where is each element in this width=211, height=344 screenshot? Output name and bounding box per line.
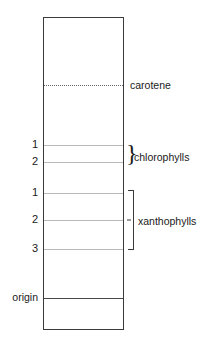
origin-label: origin	[12, 292, 38, 303]
label-chlorophylls: chlorophylls	[134, 152, 189, 163]
band-number-chlorophyll-2: 2	[32, 156, 38, 167]
bracket-tick-icon	[127, 220, 131, 221]
band-number-xanthophyll-2: 2	[32, 214, 38, 225]
chromatogram-figure: 1 2 1 2 3 origin carotene } chlorophylls…	[0, 0, 211, 344]
band-xanthophyll-2	[44, 220, 123, 221]
band-xanthophyll-3	[44, 249, 123, 250]
band-chlorophyll-2	[44, 162, 123, 163]
band-number-xanthophyll-1: 1	[32, 187, 38, 198]
band-carotene	[44, 85, 123, 86]
chromatography-plate	[43, 17, 124, 330]
band-number-xanthophyll-3: 3	[32, 243, 38, 254]
square-bracket-icon	[128, 190, 134, 250]
band-xanthophyll-1	[44, 193, 123, 194]
label-xanthophylls: xanthophylls	[138, 216, 196, 227]
band-chlorophyll-1	[44, 145, 123, 146]
band-origin-line	[44, 298, 123, 299]
band-number-chlorophyll-1: 1	[32, 139, 38, 150]
label-carotene: carotene	[130, 80, 171, 91]
band-number-column: 1 2 1 2 3 origin	[0, 0, 38, 344]
